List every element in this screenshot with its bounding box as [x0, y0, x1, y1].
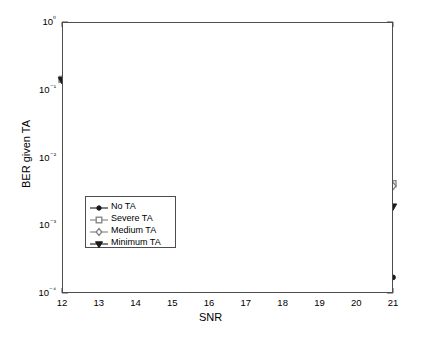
y-tick-label: 10⁻² [30, 152, 56, 163]
x-tick-label: 15 [159, 297, 185, 308]
plot-area [62, 22, 393, 293]
y-tick-label: 10⁻⁴ [30, 287, 56, 298]
y-axis-title: BER given TA [20, 84, 32, 224]
legend-item-no-ta[interactable]: No TA [86, 200, 175, 212]
legend-label: Minimum TA [109, 236, 161, 248]
x-tick-label: 16 [196, 297, 222, 308]
legend-label: Severe TA [109, 212, 153, 224]
x-tick-label: 18 [270, 297, 296, 308]
diamond-marker-icon [89, 224, 109, 236]
x-tick-label: 13 [86, 297, 112, 308]
x-tick-label: 17 [233, 297, 259, 308]
legend-item-minimum-ta[interactable]: Minimum TA [86, 236, 175, 248]
x-tick-label: 21 [380, 297, 406, 308]
chart-legend: No TASevere TAMedium TAMinimum TA [85, 196, 176, 248]
y-tick-label: 10⁻³ [30, 219, 56, 230]
circle-marker-icon [89, 200, 109, 212]
x-axis-title: SNR [0, 311, 421, 323]
triangle-down-marker-icon [89, 236, 109, 248]
ber-chart-figure: 12131415161718192021 10⁰10⁻¹10⁻²10⁻³10⁻⁴… [0, 0, 421, 339]
legend-label: No TA [109, 200, 136, 212]
x-tick-label: 14 [123, 297, 149, 308]
legend-label: Medium TA [109, 224, 156, 236]
y-tick-label: 10⁰ [30, 16, 56, 27]
x-tick-label: 19 [306, 297, 332, 308]
square-marker-icon [89, 212, 109, 224]
y-tick-label: 10⁻¹ [30, 84, 56, 95]
x-tick-label: 20 [343, 297, 369, 308]
x-tick-label: 12 [49, 297, 75, 308]
legend-item-severe-ta[interactable]: Severe TA [86, 212, 175, 224]
legend-item-medium-ta[interactable]: Medium TA [86, 224, 175, 236]
